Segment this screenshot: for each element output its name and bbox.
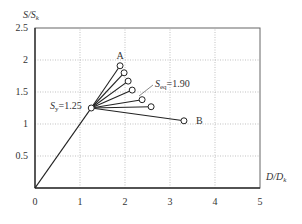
x-axis-label: D/Dk — [265, 171, 287, 184]
yield-point-marker — [88, 105, 94, 111]
data-point-marker — [139, 97, 145, 103]
x-tick-label: 3 — [168, 196, 173, 207]
x-tick-label: 0 — [33, 196, 38, 207]
data-point-marker — [121, 70, 127, 76]
data-point-marker — [148, 104, 154, 110]
label-a: A — [116, 50, 124, 61]
y-tick-label: 1.5 — [16, 86, 29, 97]
x-tick-label: 2 — [123, 196, 128, 207]
chart: 0123450.511.522.5S/SkD/Dk ABSy=1.25Seq=1… — [0, 0, 302, 224]
seq-leader-line — [139, 85, 153, 96]
y-tick-label: 2.5 — [16, 22, 29, 33]
fan-line — [91, 73, 124, 108]
data-point-marker — [181, 118, 187, 124]
seq-label: Seq=1.90 — [155, 78, 190, 91]
x-tick-label: 1 — [78, 196, 83, 207]
x-tick-label: 4 — [213, 196, 218, 207]
x-tick-label: 5 — [258, 196, 263, 207]
data-point-marker — [129, 87, 135, 93]
y-tick-label: 0.5 — [16, 150, 29, 161]
sy-label: Sy=1.25 — [50, 100, 82, 113]
y-tick-label: 1 — [23, 118, 28, 129]
data-point-marker — [125, 78, 131, 84]
elastic-line — [35, 108, 91, 188]
label-b: B — [196, 115, 203, 126]
data-point-marker — [117, 63, 123, 69]
y-tick-label: 2 — [23, 54, 28, 65]
annotations: ABSy=1.25Seq=1.90 — [50, 50, 203, 126]
y-axis-label: S/Sk — [23, 9, 40, 22]
